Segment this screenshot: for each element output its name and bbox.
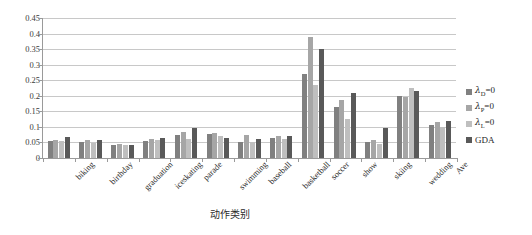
bar xyxy=(414,91,419,158)
legend-swatch-icon xyxy=(466,121,472,127)
x-axis-line xyxy=(42,158,457,159)
y-axis-tick-label: 0.05 xyxy=(0,138,40,146)
y-axis-tick-label: 0.15 xyxy=(0,107,40,115)
bar xyxy=(59,141,64,158)
bar-group xyxy=(392,18,424,158)
bar xyxy=(282,139,287,158)
x-axis-tick-label: graduation xyxy=(142,160,174,192)
legend-swatch-icon xyxy=(466,137,472,143)
legend-label: λD=0 xyxy=(475,86,495,98)
bar-group xyxy=(297,18,329,158)
y-axis-tick-label: 0.1 xyxy=(0,123,40,131)
bar xyxy=(192,128,197,158)
y-axis-tick-label: 0.35 xyxy=(0,45,40,53)
bar xyxy=(308,37,313,158)
bar xyxy=(383,128,388,158)
y-axis-tickmark xyxy=(38,34,42,35)
bar xyxy=(238,142,243,158)
x-axis-tick-label: biking xyxy=(74,160,96,182)
bar xyxy=(65,137,70,158)
y-axis-tick-label: 0 xyxy=(0,154,40,162)
bar xyxy=(319,49,324,158)
bar-group xyxy=(202,18,234,158)
x-axis-tick-label: birthday xyxy=(108,160,134,186)
y-axis-tickmark xyxy=(38,49,42,50)
x-axis-tickmark xyxy=(457,158,458,162)
bar-group xyxy=(234,18,266,158)
bar xyxy=(175,135,180,158)
bar xyxy=(212,133,217,159)
legend-swatch-icon xyxy=(466,105,472,111)
bar xyxy=(397,96,402,158)
y-axis-tickmark xyxy=(38,111,42,112)
bar-group xyxy=(43,18,75,158)
bar xyxy=(287,136,292,158)
x-axis-labels: bikingbirthdaygraduationiceskatingparade… xyxy=(43,160,456,210)
x-axis-tick-label: parade xyxy=(202,160,224,182)
y-axis-tick-label: 0.4 xyxy=(0,30,40,38)
bar-group xyxy=(107,18,139,158)
legend-label: λL=0 xyxy=(475,118,494,130)
bar xyxy=(244,135,249,158)
bar-group xyxy=(138,18,170,158)
y-axis-tickmark xyxy=(38,65,42,66)
legend-item: GDA xyxy=(466,132,532,148)
bar xyxy=(256,139,261,158)
bar xyxy=(79,142,84,158)
bar-group xyxy=(329,18,361,158)
bar xyxy=(123,145,128,158)
bar xyxy=(224,138,229,158)
bar xyxy=(339,100,344,158)
chart-legend: λD=0λP=0λL=0GDA xyxy=(466,84,532,148)
bar-groups xyxy=(43,18,456,158)
y-axis-tickmark xyxy=(38,80,42,81)
bar xyxy=(345,119,350,158)
y-axis-tick-label: 0.2 xyxy=(0,92,40,100)
bar xyxy=(334,107,339,158)
bar xyxy=(270,138,275,158)
bar xyxy=(129,145,134,158)
bar xyxy=(409,88,414,158)
x-axis-tick-label: swimming xyxy=(238,160,270,192)
y-axis-tick-label: 0.45 xyxy=(0,14,40,22)
bar xyxy=(403,97,408,158)
bar-group xyxy=(170,18,202,158)
x-axis-tick-label: wedding xyxy=(427,160,454,187)
bar xyxy=(207,134,212,158)
bar xyxy=(53,140,58,158)
bar xyxy=(85,140,90,158)
y-axis-tick-label: 0.25 xyxy=(0,76,40,84)
legend-item: λL=0 xyxy=(466,116,532,132)
bar xyxy=(429,125,434,158)
bar-chart: 00.050.10.150.20.250.30.350.40.45 biking… xyxy=(0,0,532,235)
bar xyxy=(351,93,356,158)
x-axis-tick-label: Ave xyxy=(454,160,470,176)
legend-item: λD=0 xyxy=(466,84,532,100)
bar xyxy=(440,127,445,158)
legend-swatch-icon xyxy=(466,89,472,95)
legend-label: GDA xyxy=(475,136,495,145)
legend-label: λP=0 xyxy=(475,102,494,114)
x-axis-tick-label: iceskating xyxy=(174,160,205,191)
bar xyxy=(186,139,191,158)
y-axis-tickmark xyxy=(38,96,42,97)
legend-item: λP=0 xyxy=(466,100,532,116)
bar xyxy=(117,144,122,158)
bar xyxy=(48,141,53,158)
y-axis-tick-label: 0.3 xyxy=(0,61,40,69)
bar xyxy=(111,145,116,158)
x-axis-tick-label: baseball xyxy=(267,160,293,186)
bar xyxy=(155,140,160,158)
bar xyxy=(446,121,451,158)
bar-group xyxy=(361,18,393,158)
x-axis-tick-label: show xyxy=(360,160,379,179)
x-axis-tick-label: basketball xyxy=(301,160,332,191)
bar xyxy=(149,139,154,158)
bar xyxy=(181,132,186,158)
bar xyxy=(435,122,440,158)
bar xyxy=(276,136,281,158)
bar xyxy=(250,142,255,158)
bar-group xyxy=(265,18,297,158)
y-axis-tickmark xyxy=(38,18,42,19)
bar xyxy=(143,141,148,158)
